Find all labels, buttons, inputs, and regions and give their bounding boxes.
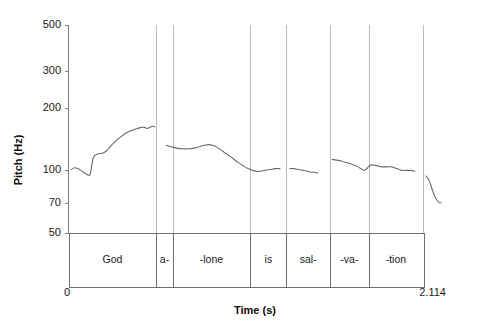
tier-segment-label: -lone	[200, 253, 224, 265]
y-tick-label-100: 100	[43, 163, 61, 175]
pitch-curve-segment	[426, 176, 441, 203]
tier-segment-label: is	[265, 253, 273, 265]
pitch-curve-segment	[332, 159, 415, 171]
y-axis-title: Pitch (Hz)	[12, 134, 24, 185]
pitch-curve-segment	[166, 145, 280, 172]
tier-segment-label: a-	[160, 253, 170, 265]
segmentation-tier: Goda--loneissal--va--tion	[70, 233, 425, 288]
pitch-curve-segment	[71, 126, 155, 175]
y-tick-label-500: 500	[43, 18, 61, 30]
x-axis-end-label: 2.114	[419, 286, 446, 298]
x-axis-start-label: 0	[64, 286, 70, 298]
tier-segment-label: God	[103, 253, 123, 265]
tier-segment-label: -va-	[340, 253, 359, 265]
tier-outer-box	[70, 234, 425, 288]
pitch-plot-svg: 5003002001007050 Goda--loneissal--va--ti…	[0, 0, 480, 326]
pitch-contour-figure: 5003002001007050 Goda--loneissal--va--ti…	[0, 0, 480, 326]
y-tick-label-50: 50	[49, 226, 61, 238]
tier-segment-label: sal-	[300, 253, 317, 265]
x-axis-title: Time (s)	[234, 304, 276, 316]
tier-segment-label: -tion	[386, 253, 407, 265]
segment-gridlines	[157, 25, 424, 233]
y-tick-label-70: 70	[49, 196, 61, 208]
pitch-curve-segment	[290, 169, 318, 174]
pitch-contour-curves	[71, 126, 441, 203]
y-tick-label-200: 200	[43, 101, 61, 113]
y-tick-label-300: 300	[43, 64, 61, 76]
y-axis-ticks: 5003002001007050	[43, 18, 69, 238]
